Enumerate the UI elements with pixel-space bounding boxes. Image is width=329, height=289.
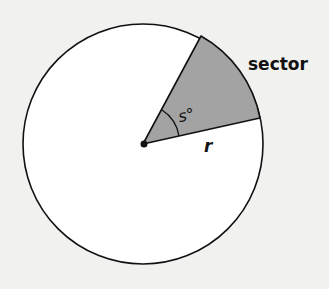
sector-diagram: sector s° r (0, 0, 329, 289)
center-point (141, 141, 148, 148)
sector-label: sector (248, 54, 309, 74)
